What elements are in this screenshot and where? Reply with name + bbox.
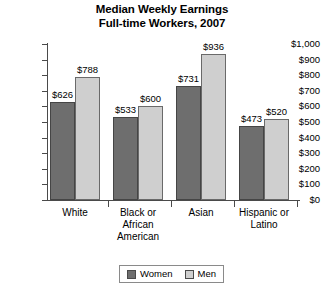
y-axis-tick bbox=[42, 75, 47, 76]
x-axis-category-1: Black or African American bbox=[105, 207, 171, 243]
y-axis-tick bbox=[42, 138, 47, 139]
y-axis-tick bbox=[42, 184, 47, 185]
x-axis-category-2: Asian bbox=[168, 207, 234, 219]
chart-legend: Women Men bbox=[119, 265, 224, 283]
legend-label-women: Women bbox=[140, 269, 173, 279]
y-axis-tick bbox=[42, 169, 47, 170]
bar-men-0 bbox=[75, 77, 100, 200]
bar-value-label: $600 bbox=[131, 94, 170, 104]
legend-swatch-men-icon bbox=[185, 270, 194, 279]
y-axis-tick bbox=[42, 200, 47, 201]
bar-women-3 bbox=[239, 126, 264, 200]
bar-men-3 bbox=[264, 119, 289, 200]
y-axis-line bbox=[47, 43, 48, 201]
bar-men-1 bbox=[138, 106, 163, 200]
bar-women-2 bbox=[176, 86, 201, 200]
legend-item-women[interactable]: Women bbox=[127, 269, 173, 279]
bar-men-2 bbox=[201, 54, 226, 200]
y-axis-label: $900 bbox=[282, 55, 324, 65]
y-axis-label: $800 bbox=[282, 70, 324, 80]
chart-title: Median Weekly Earnings Full-time Workers… bbox=[0, 2, 324, 30]
bar-value-label: $936 bbox=[194, 42, 233, 52]
legend-swatch-women-icon bbox=[127, 270, 136, 279]
x-axis-category-3: Hispanic or Latino bbox=[231, 207, 297, 231]
x-axis-tick bbox=[297, 201, 298, 207]
y-axis-tick bbox=[42, 122, 47, 123]
y-axis-tick bbox=[42, 106, 47, 107]
bar-value-label: $788 bbox=[68, 65, 107, 75]
y-axis-label: $1,000 bbox=[282, 39, 324, 49]
chart-title-line-2: Full-time Workers, 2007 bbox=[0, 16, 324, 30]
chart-title-line-1: Median Weekly Earnings bbox=[0, 2, 324, 16]
bar-women-1 bbox=[113, 117, 138, 200]
x-axis-line bbox=[47, 200, 300, 201]
legend-label-men: Men bbox=[198, 269, 216, 279]
y-axis-tick bbox=[42, 60, 47, 61]
bar-women-0 bbox=[50, 102, 75, 200]
y-axis-tick bbox=[42, 153, 47, 154]
chart-container: Median Weekly Earnings Full-time Workers… bbox=[0, 0, 324, 293]
bar-value-label: $520 bbox=[257, 107, 296, 117]
y-axis-tick bbox=[42, 44, 47, 45]
x-axis-category-0: White bbox=[42, 207, 108, 219]
legend-item-men[interactable]: Men bbox=[185, 269, 216, 279]
y-axis-label: $700 bbox=[282, 86, 324, 96]
